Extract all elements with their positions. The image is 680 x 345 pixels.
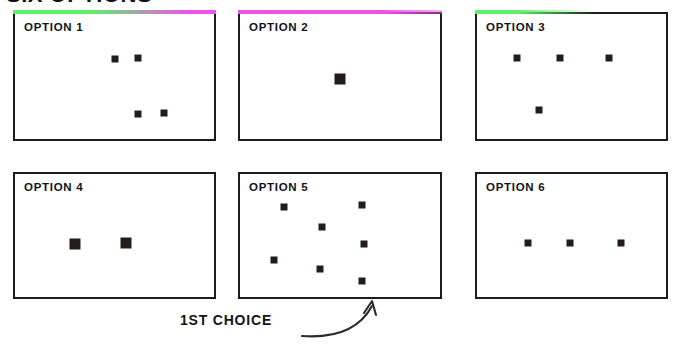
marker-square: [271, 257, 278, 264]
marker-square: [513, 54, 520, 61]
marker-square: [359, 278, 366, 285]
option-card-3[interactable]: OPTION 3: [475, 12, 668, 141]
marker-square: [525, 239, 532, 246]
option-card-label: OPTION 5: [249, 181, 308, 193]
option-card-6[interactable]: OPTION 6: [475, 172, 668, 299]
marker-square: [121, 237, 132, 248]
option-card-label: OPTION 3: [486, 21, 545, 33]
first-choice-annotation-label: 1ST CHOICE: [180, 312, 272, 328]
marker-square: [111, 56, 118, 63]
card-accent-bar-3: [475, 10, 668, 14]
marker-square: [361, 241, 368, 248]
marker-square: [566, 239, 573, 246]
option-card-1[interactable]: OPTION 1: [13, 12, 216, 141]
marker-square: [335, 74, 346, 85]
option-card-label: OPTION 1: [24, 21, 83, 33]
card-accent-bar-1: [13, 10, 216, 14]
option-card-grid: OPTION 1OPTION 2OPTION 3OPTION 4OPTION 5…: [0, 0, 680, 305]
marker-square: [319, 223, 326, 230]
marker-square: [281, 204, 288, 211]
marker-square: [359, 201, 366, 208]
marker-square: [161, 109, 168, 116]
option-card-label: OPTION 2: [249, 21, 308, 33]
marker-square: [135, 54, 142, 61]
marker-square: [557, 54, 564, 61]
option-card-label: OPTION 6: [486, 181, 545, 193]
option-card-4[interactable]: OPTION 4: [13, 172, 216, 299]
card-accent-bar-2: [238, 10, 442, 14]
option-card-5[interactable]: OPTION 5: [238, 172, 442, 299]
option-card-2[interactable]: OPTION 2: [238, 12, 442, 141]
option-card-label: OPTION 4: [24, 181, 83, 193]
marker-square: [317, 265, 324, 272]
marker-square: [135, 111, 142, 118]
marker-square: [606, 54, 613, 61]
curved-arrow-up-right-icon: [300, 296, 410, 341]
marker-square: [69, 239, 80, 250]
marker-square: [617, 239, 624, 246]
marker-square: [536, 107, 543, 114]
